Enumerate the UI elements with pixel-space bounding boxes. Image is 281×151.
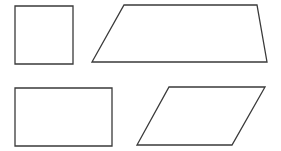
parallelogram-shape: [137, 87, 265, 145]
shapes-diagram: [0, 0, 281, 151]
trapezoid-shape: [92, 5, 267, 62]
rectangle-shape: [15, 88, 112, 146]
square-shape: [15, 6, 73, 64]
